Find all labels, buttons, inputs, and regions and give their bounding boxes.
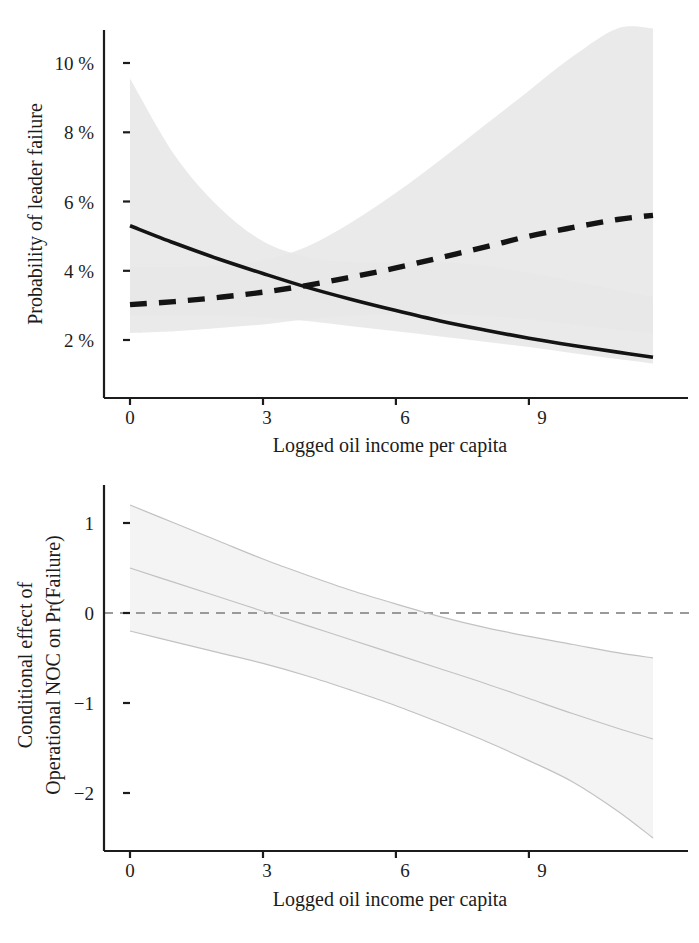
y-tick-label-minus1: −1 xyxy=(74,693,94,714)
probability-of-leader-failure-chart: 10 % 8 % 6 % 4 % 2 % 0 3 6 9 Logged oil … xyxy=(0,0,699,470)
chart-panel-top: 10 % 8 % 6 % 4 % 2 % 0 3 6 9 Logged oil … xyxy=(0,0,699,470)
y-tick-label-minus2: −2 xyxy=(74,783,94,804)
x-axis-title-top: Logged oil income per capita xyxy=(273,434,507,457)
x-tick-label-3: 3 xyxy=(262,407,272,428)
y-tick-label-0: 0 xyxy=(85,603,95,624)
conditional-effect-chart: 1 0 −1 −2 0 3 6 9 Logged oil income per … xyxy=(0,460,699,943)
x-tick-label-0: 0 xyxy=(125,860,135,881)
y-tick-label-10pct: 10 % xyxy=(54,53,94,74)
y-axis-title-bottom-line1: Conditional effect of xyxy=(14,582,36,749)
plot-area-top xyxy=(103,26,673,398)
x-tick-label-9: 9 xyxy=(537,407,547,428)
x-tick-label-6: 6 xyxy=(400,860,410,881)
x-tick-label-3: 3 xyxy=(262,860,272,881)
x-tick-label-6: 6 xyxy=(400,407,410,428)
x-tick-labels-top: 0 3 6 9 xyxy=(125,407,547,428)
x-tick-label-0: 0 xyxy=(125,407,135,428)
y-axis-title-top: Probability of leader failure xyxy=(24,103,47,325)
chart-panel-bottom: 1 0 −1 −2 0 3 6 9 Logged oil income per … xyxy=(0,460,699,943)
plot-area-bottom xyxy=(103,485,690,845)
y-tick-label-4pct: 4 % xyxy=(64,261,94,282)
x-tick-labels-bottom: 0 3 6 9 xyxy=(125,860,547,881)
x-tick-label-9: 9 xyxy=(537,860,547,881)
y-tick-label-2pct: 2 % xyxy=(64,330,94,351)
x-axis-title-bottom: Logged oil income per capita xyxy=(273,888,507,911)
y-tick-labels-top: 10 % 8 % 6 % 4 % 2 % xyxy=(54,53,94,351)
y-tick-label-8pct: 8 % xyxy=(64,122,94,143)
y-axis-title-bottom-line2: Operational NOC on Pr(Failure) xyxy=(42,535,65,794)
y-tick-label-1: 1 xyxy=(85,513,95,534)
y-tick-label-6pct: 6 % xyxy=(64,192,94,213)
y-tick-labels-bottom: 1 0 −1 −2 xyxy=(74,513,94,804)
